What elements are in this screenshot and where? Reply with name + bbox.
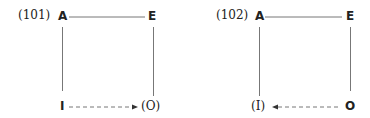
corner-i-102: (I)	[251, 99, 265, 113]
corner-a-101: A	[58, 9, 67, 23]
diagram-label-101: (101)	[18, 8, 50, 22]
corner-e-102: E	[346, 9, 354, 23]
diagram-lines	[0, 0, 370, 118]
arrowhead-right-icon	[132, 105, 138, 110]
corner-o-101: (O)	[141, 99, 160, 113]
corner-o-102: O	[345, 99, 355, 113]
corner-a-102: A	[255, 9, 264, 23]
square-of-opposition-101	[63, 17, 154, 110]
square-of-opposition-102	[260, 17, 351, 110]
diagram-label-102: (102)	[216, 8, 248, 22]
corner-e-101: E	[148, 9, 156, 23]
corner-i-101: I	[60, 99, 64, 113]
arrowhead-left-icon	[272, 105, 278, 110]
